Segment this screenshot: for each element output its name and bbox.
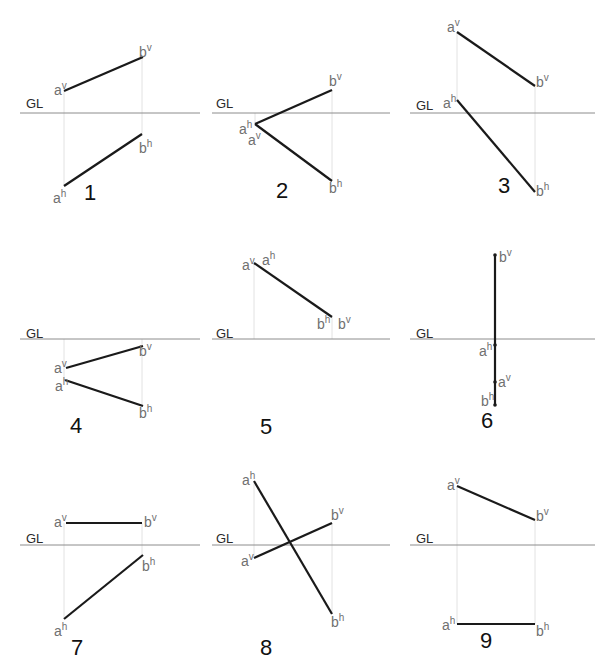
point-label-superscript: h bbox=[61, 188, 67, 199]
point-label-superscript: v bbox=[544, 72, 549, 83]
ground-line-label: GL bbox=[416, 326, 433, 341]
ground-line-label: GL bbox=[416, 531, 433, 546]
point-label-base: b bbox=[329, 180, 337, 196]
point-label-superscript: h bbox=[489, 391, 495, 402]
point-label-superscript: v bbox=[346, 314, 351, 325]
point-label-base: a bbox=[54, 514, 62, 530]
point-label-base: a bbox=[55, 378, 63, 394]
point-label-base: b bbox=[144, 514, 152, 530]
point-label-superscript: h bbox=[147, 403, 153, 414]
point-label-base: a bbox=[442, 617, 450, 633]
point-label-base: b bbox=[536, 623, 544, 639]
point-label-base: b bbox=[499, 249, 507, 265]
point-label-superscript: v bbox=[339, 505, 344, 516]
point-label-base: a bbox=[443, 95, 451, 111]
panel-number: 3 bbox=[498, 173, 510, 198]
point-label-base: b bbox=[536, 508, 544, 524]
projection-diagram: GLavbvbhah1GLbvahavbh2GLavbvahbh3GLavbva… bbox=[0, 0, 612, 664]
point-label-base: a bbox=[54, 623, 62, 639]
panel-number: 6 bbox=[481, 408, 493, 433]
panel-number: 1 bbox=[84, 180, 96, 205]
background bbox=[0, 0, 612, 664]
ground-line-label: GL bbox=[26, 531, 43, 546]
point-label-base: b bbox=[139, 343, 147, 359]
point-label-base: a bbox=[54, 82, 62, 98]
point-label-superscript: h bbox=[487, 341, 493, 352]
point-label-superscript: v bbox=[62, 512, 67, 523]
point-label-superscript: v bbox=[62, 80, 67, 91]
point-label-superscript: h bbox=[337, 178, 343, 189]
point-label-superscript: h bbox=[544, 621, 550, 632]
point-label-base: a bbox=[241, 553, 249, 569]
ground-line-label: GL bbox=[216, 96, 233, 111]
panel-number: 7 bbox=[71, 635, 83, 660]
point-label-superscript: v bbox=[147, 42, 152, 53]
panel-number: 4 bbox=[70, 413, 82, 438]
point-label-superscript: h bbox=[325, 314, 331, 325]
point-label-superscript: h bbox=[250, 470, 256, 481]
point-label-base: a bbox=[242, 257, 250, 273]
point-label-superscript: v bbox=[337, 71, 342, 82]
ground-line-label: GL bbox=[26, 96, 43, 111]
point-label-superscript: v bbox=[256, 130, 261, 141]
point-label-base: a bbox=[53, 190, 61, 206]
point-label-base: a bbox=[479, 343, 487, 359]
point-label-base: b bbox=[481, 393, 489, 409]
point-label-base: b bbox=[536, 74, 544, 90]
point-label-superscript: v bbox=[250, 255, 255, 266]
point-label-base: b bbox=[139, 140, 147, 156]
point-marker bbox=[493, 403, 497, 407]
point-label-base: b bbox=[331, 507, 339, 523]
point-label-base: a bbox=[447, 19, 455, 35]
panel-number: 8 bbox=[260, 635, 272, 660]
point-label-superscript: v bbox=[62, 358, 67, 369]
panel-number: 2 bbox=[276, 178, 288, 203]
point-label-superscript: h bbox=[63, 376, 69, 387]
point-label-base: a bbox=[262, 252, 270, 268]
point-label-base: b bbox=[331, 614, 339, 630]
point-label-base: b bbox=[329, 73, 337, 89]
point-label-superscript: h bbox=[450, 615, 456, 626]
point-label-base: b bbox=[317, 316, 325, 332]
point-label-superscript: v bbox=[152, 512, 157, 523]
point-marker bbox=[493, 380, 497, 384]
point-label-superscript: v bbox=[455, 475, 460, 486]
point-label-superscript: v bbox=[544, 506, 549, 517]
point-marker bbox=[493, 343, 497, 347]
point-label-base: a bbox=[239, 121, 247, 137]
point-label-base: b bbox=[139, 405, 147, 421]
point-label-superscript: h bbox=[147, 138, 153, 149]
point-label-base: a bbox=[242, 472, 250, 488]
point-label-base: b bbox=[139, 44, 147, 60]
ground-line-label: GL bbox=[216, 531, 233, 546]
point-label-base: b bbox=[338, 316, 346, 332]
point-label-superscript: h bbox=[270, 250, 276, 261]
point-label-base: b bbox=[142, 558, 150, 574]
panel-number: 9 bbox=[480, 628, 492, 653]
ground-line-label: GL bbox=[416, 98, 433, 113]
point-label-base: a bbox=[447, 477, 455, 493]
panel-number: 5 bbox=[260, 414, 272, 439]
point-label-superscript: v bbox=[506, 372, 511, 383]
point-label-superscript: v bbox=[507, 247, 512, 258]
ground-line-label: GL bbox=[26, 326, 43, 341]
point-label-base: a bbox=[248, 132, 256, 148]
point-label-superscript: h bbox=[247, 119, 253, 130]
point-label-superscript: h bbox=[451, 93, 457, 104]
point-label-superscript: h bbox=[62, 621, 68, 632]
point-label-superscript: h bbox=[544, 181, 550, 192]
point-label-superscript: v bbox=[455, 17, 460, 28]
point-label-superscript: v bbox=[249, 551, 254, 562]
point-label-superscript: v bbox=[147, 341, 152, 352]
point-marker bbox=[493, 253, 497, 257]
point-label-superscript: h bbox=[150, 556, 156, 567]
point-label-base: a bbox=[498, 374, 506, 390]
point-label-superscript: h bbox=[339, 612, 345, 623]
point-label-base: b bbox=[536, 183, 544, 199]
ground-line-label: GL bbox=[216, 326, 233, 341]
point-label-base: a bbox=[54, 360, 62, 376]
